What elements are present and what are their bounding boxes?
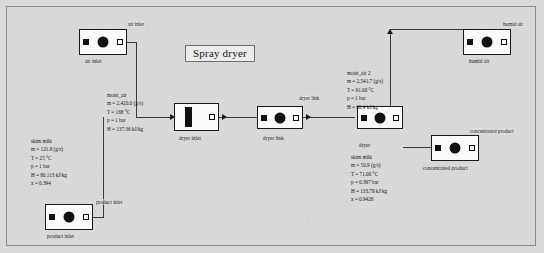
stream-line: x = 0.394	[31, 179, 67, 187]
stream-annotation-dryer-outlet: skim milk m = 50.9 (g/s) T = 71.00 °C p …	[351, 153, 387, 204]
stream-line: p = 1 bar	[347, 94, 383, 102]
port-label-dryer-link: dryer link	[298, 95, 320, 101]
stream-annotation-skim-milk-feed: skim milk m = 121.8 (g/s) T = 25 °C p = …	[31, 137, 67, 188]
arrow-dryer-link-out	[306, 114, 311, 120]
arrow-dryer-inlet-out	[222, 114, 227, 120]
port-out-icon[interactable]	[117, 39, 123, 45]
block-dryer-link[interactable]	[257, 106, 303, 129]
stream-line: H = 137.36 kJ/kg	[107, 125, 143, 133]
stream-name: skim milk	[31, 137, 67, 145]
port-in-icon[interactable]	[467, 39, 473, 45]
port-in-icon[interactable]	[261, 115, 267, 121]
port-in-icon[interactable]	[435, 145, 441, 151]
stream-line: H = 80.113 kJ/kg	[31, 171, 67, 179]
block-body-icon	[98, 37, 109, 48]
stream-line: p = 0.397 bar	[351, 178, 387, 186]
block-concentrated-product[interactable]	[431, 135, 479, 161]
stream-annotation-moist-air: moist_air m = 2,420.0 (g/s) T = 168 °C p…	[107, 91, 143, 133]
stream-line: m = 2,541.7 (g/s)	[347, 77, 383, 85]
block-body-icon	[482, 37, 493, 48]
port-out-icon[interactable]	[209, 114, 215, 120]
flowsheet-surface[interactable]: Spray dryer air inlet air inlet	[6, 6, 536, 246]
stream-line: p = 1 bar	[31, 162, 67, 170]
block-label-product-inlet: product inlet	[47, 233, 74, 241]
port-label-humid-air: humid air	[502, 21, 524, 27]
block-body-icon	[185, 107, 192, 127]
port-out-icon[interactable]	[469, 145, 475, 151]
block-body-icon	[450, 143, 461, 154]
stream-annotation-moist-air-2: moist_air 2 m = 2,541.7 (g/s) T = 91.00 …	[347, 69, 383, 111]
stream-line: m = 2,420.0 (g/s)	[107, 99, 143, 107]
block-body-icon	[375, 112, 386, 123]
stream-name: moist_air	[107, 91, 143, 99]
block-body-icon	[275, 112, 286, 123]
port-in-icon[interactable]	[361, 115, 367, 121]
port-out-icon[interactable]	[293, 115, 299, 121]
block-product-inlet[interactable]	[45, 204, 93, 230]
stream-line: H = 60.4 kJ/kg	[347, 103, 383, 111]
wire-dryer-vapor-riser	[390, 29, 391, 117]
block-body-icon	[64, 212, 75, 223]
block-label-concentrated-product: concentrated product	[423, 165, 468, 173]
block-air-inlet[interactable]	[79, 29, 127, 55]
port-label-concentrated-product: concentrated product	[469, 128, 515, 134]
arrow-into-humid-air	[387, 29, 393, 34]
diagram-title: Spray dryer	[185, 45, 255, 62]
port-label-product-inlet: product inlet	[95, 199, 123, 205]
block-label-humid-air: humid air	[469, 58, 489, 66]
port-out-icon[interactable]	[393, 115, 399, 121]
stream-name: moist_air 2	[347, 69, 383, 77]
block-label-dryer-link: dryer link	[263, 135, 284, 143]
block-dryer-inlet[interactable]	[174, 103, 219, 131]
block-humid-air[interactable]	[463, 29, 511, 55]
port-label-air-inlet: air inlet	[127, 21, 145, 27]
stream-line: H = 133.78 kJ/kg	[351, 187, 387, 195]
wire-to-humid-air	[390, 29, 465, 30]
stream-line: x = 0.9428	[351, 195, 387, 203]
wire-product-inlet-out	[92, 217, 104, 218]
stream-line: T = 168 °C	[107, 108, 143, 116]
port-out-icon[interactable]	[501, 39, 507, 45]
stream-line: m = 50.9 (g/s)	[351, 161, 387, 169]
stream-line: m = 121.8 (g/s)	[31, 145, 67, 153]
port-out-icon[interactable]	[83, 214, 89, 220]
port-in-icon[interactable]	[49, 214, 55, 220]
block-label-dryer: dryer	[359, 142, 370, 150]
block-label-dryer-inlet: dryer inlet	[179, 135, 201, 143]
stream-line: T = 91.00 °C	[347, 86, 383, 94]
diagram-canvas: Spray dryer air inlet air inlet	[0, 0, 544, 253]
stream-line: T = 25 °C	[31, 154, 67, 162]
stream-line: skim milk	[351, 153, 387, 161]
stream-line: p = 1 bar	[107, 116, 143, 124]
stream-line: T = 71.00 °C	[351, 170, 387, 178]
port-in-icon[interactable]	[83, 39, 89, 45]
block-label-air-inlet: air inlet	[85, 58, 101, 66]
